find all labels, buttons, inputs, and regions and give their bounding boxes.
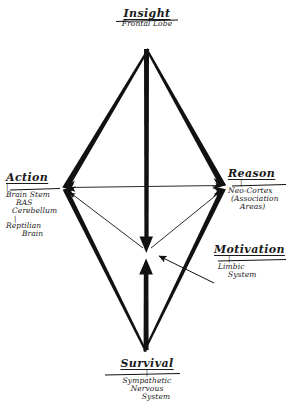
edge-insight-action — [62, 49, 150, 192]
edge-insight-reason — [146, 49, 227, 190]
node-insight[interactable]: Insight Frontal Lobe — [0, 8, 294, 29]
node-reason[interactable]: Reason | Neo-Cortex (Association Areas) — [228, 168, 294, 212]
node-reason-subtitle-3: Areas) — [228, 203, 294, 211]
node-action[interactable]: Action | Brain Stem RAS Cerebellum | Rep… — [6, 172, 86, 239]
node-motivation-subtitle-2: System — [214, 271, 294, 279]
diagram-canvas: Insight Frontal Lobe Action | Brain Stem… — [0, 0, 294, 409]
node-action-subtitle-5: Brain — [6, 230, 86, 238]
node-insight-subtitle: Frontal Lobe — [0, 20, 294, 28]
node-reason-title: Reason — [228, 168, 294, 180]
edge-action-reason — [66, 183, 221, 192]
node-action-subtitle-4: Reptilian — [6, 222, 86, 230]
node-action-title: Action — [6, 172, 86, 184]
node-survival[interactable]: Survival | Sympathetic Nervous System — [0, 358, 294, 402]
node-motivation[interactable]: Motivation | Limbic System — [214, 244, 294, 279]
node-survival-subtitle-3: System — [0, 393, 294, 401]
node-action-subtitle-3: Cerebellum — [6, 207, 86, 215]
edge-insight-motivation — [140, 49, 154, 253]
node-motivation-title: Motivation — [214, 244, 294, 256]
